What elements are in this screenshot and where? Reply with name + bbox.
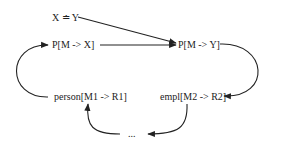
edge-pmy-to-empl <box>220 44 258 96</box>
diagram-canvas: X ≐ Y P[M -> X] P[M -> Y] person[M1 -> R… <box>0 0 282 147</box>
node-ellipsis: ... <box>128 128 136 139</box>
edge-empl-to-ellipsis <box>148 104 187 134</box>
node-equality: X ≐ Y <box>52 12 79 23</box>
node-p-m-y: P[M -> Y] <box>178 39 220 50</box>
node-empl: empl[M2 -> R2] <box>160 91 226 102</box>
node-person: person[M1 -> R1] <box>54 91 127 102</box>
node-p-m-x: P[M -> X] <box>52 39 94 50</box>
edge-person-to-pmx <box>17 45 49 97</box>
edge-ellipsis-to-person <box>88 104 120 134</box>
